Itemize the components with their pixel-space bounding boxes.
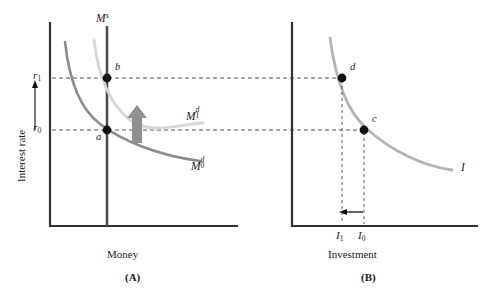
panel-a-y-axis-title: Interest rate (16, 130, 27, 182)
panel-b-caption: (B) (361, 272, 376, 283)
money-demand-0-label-scripts: d 0 (201, 158, 207, 170)
point-b-label: b (115, 62, 120, 73)
x-tick-i1-subscript: 1 (340, 234, 344, 243)
y-tick-r1: r1 (33, 70, 41, 83)
money-demand-1-label-subscript: 1 (196, 112, 200, 120)
panel-b-x-axis-title: Investment (328, 249, 377, 260)
money-demand-1-label-scripts: d 1 (196, 108, 202, 120)
diagram-canvas (0, 0, 494, 294)
investment-demand-label: I (461, 162, 465, 174)
x-tick-i0: I0 (358, 230, 366, 243)
x-tick-i1: I1 (336, 230, 344, 243)
point-d-marker (338, 74, 347, 83)
point-d-label: d (350, 62, 355, 73)
y-tick-r0-subscript: 0 (37, 126, 41, 135)
point-a-marker (103, 126, 112, 135)
point-b-marker (103, 74, 112, 83)
money-supply-label-superscript: s (106, 11, 109, 20)
investment-demand-curve (330, 38, 452, 170)
panel-a-x-axis-title: Money (107, 249, 138, 260)
point-c-label: c (372, 114, 377, 125)
money-demand-0-curve (65, 42, 200, 161)
money-demand-0-label: M d 0 (191, 158, 206, 172)
figure-root: Interest rate r1 r0 Ms b a M d 1 M d 0 M… (0, 0, 494, 294)
money-demand-0-label-subscript: 0 (201, 162, 205, 170)
money-demand-0-label-base: M (191, 160, 201, 172)
money-demand-1-label: M d 1 (186, 108, 201, 122)
money-supply-label: Ms (96, 12, 109, 24)
panel-a-caption: (A) (125, 272, 140, 283)
y-tick-r1-subscript: 1 (37, 74, 41, 83)
y-tick-r0: r0 (33, 122, 41, 135)
investment-demand-label-base: I (461, 161, 465, 173)
panel-a-group (32, 22, 365, 227)
panel-b-group (292, 22, 478, 227)
x-tick-i0-subscript: 0 (362, 234, 366, 243)
point-c-marker (360, 126, 369, 135)
money-supply-label-base: M (96, 12, 106, 24)
money-demand-shift-arrow (127, 105, 147, 143)
point-a-label: a (96, 132, 101, 143)
money-demand-1-label-base: M (186, 110, 196, 122)
investment-fall-arrow (339, 209, 363, 215)
